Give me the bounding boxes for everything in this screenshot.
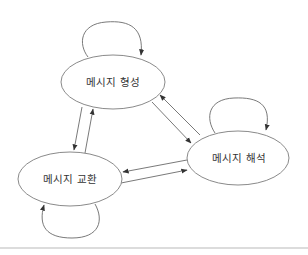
edge-formation-to-interpretation xyxy=(152,102,191,143)
edge-exchange-to-interpretation xyxy=(121,170,187,183)
message-cycle-diagram: 메시지 형성 메시지 해석 메시지 교환 xyxy=(0,0,308,255)
edge-exchange-to-formation xyxy=(85,109,93,153)
node-formation-label: 메시지 형성 xyxy=(86,76,139,88)
edge-formation-to-exchange xyxy=(74,107,82,150)
edge-interpretation-to-formation xyxy=(160,95,200,135)
node-exchange: 메시지 교환 xyxy=(18,152,122,206)
edge-exchange-self-loop xyxy=(42,204,99,238)
edge-interpretation-self-loop xyxy=(210,98,268,133)
node-formation: 메시지 형성 xyxy=(61,55,165,109)
edge-formation-self-loop xyxy=(82,22,141,57)
node-interpretation-label: 메시지 해석 xyxy=(212,152,265,164)
bottom-divider xyxy=(0,247,308,249)
node-exchange-label: 메시지 교환 xyxy=(43,173,96,185)
edge-interpretation-to-exchange xyxy=(123,160,187,172)
node-interpretation: 메시지 해석 xyxy=(187,131,289,185)
